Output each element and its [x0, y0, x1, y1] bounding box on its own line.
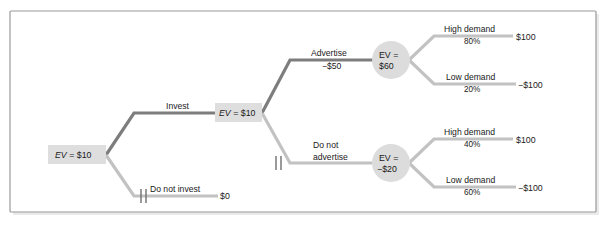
- outcome-probability: 20%: [464, 85, 480, 94]
- svg-text:EV = $10: EV = $10: [219, 108, 256, 118]
- branch-label-do-not-advertise-line1: Do not: [313, 140, 339, 150]
- root-decision-node[interactable]: EV = $10: [48, 145, 106, 164]
- branch-label-do-not-advertise-line2: advertise: [313, 152, 348, 162]
- no-advertise-ev-prefix: EV =: [379, 153, 398, 163]
- figure-frame: [10, 11, 596, 212]
- branch-cost-advertise: −$50: [322, 61, 342, 71]
- svg-text:EV = $10: EV = $10: [55, 150, 92, 160]
- outcome-payoff: −$100: [518, 80, 543, 90]
- outcome-label: Low demand: [446, 175, 495, 185]
- outcome-label: High demand: [444, 24, 495, 34]
- no-advertise-chance-node[interactable]: EV = −$20: [372, 144, 410, 182]
- outcome-probability: 80%: [464, 37, 480, 46]
- branch-label-advertise: Advertise: [311, 48, 347, 58]
- branch-label-do-not-invest: Do not invest: [150, 184, 201, 194]
- advertise-ev-value: $60: [379, 61, 394, 71]
- outcome-probability: 40%: [464, 140, 480, 149]
- outcome-payoff: −$100: [518, 183, 543, 193]
- outcome-label: High demand: [444, 127, 495, 137]
- decision-tree-figure: EV = $10 EV = $10 EV = $60 EV = −$20 Inv…: [0, 0, 610, 227]
- outcome-payoff: $100: [516, 135, 536, 145]
- invest-ev-value: = $10: [233, 108, 255, 118]
- no-advertise-ev-value: −$20: [377, 164, 397, 174]
- invest-decision-node[interactable]: EV = $10: [215, 103, 262, 122]
- outcome-payoff: $100: [516, 32, 536, 42]
- outcome-label: Low demand: [446, 72, 495, 82]
- branch-label-invest: Invest: [166, 101, 190, 111]
- outcome-probability: 60%: [464, 188, 480, 197]
- advertise-ev-prefix: EV =: [379, 50, 398, 60]
- payoff-do-not-invest: $0: [220, 191, 230, 201]
- advertise-chance-node[interactable]: EV = $60: [372, 41, 410, 79]
- root-ev-value: = $10: [69, 150, 91, 160]
